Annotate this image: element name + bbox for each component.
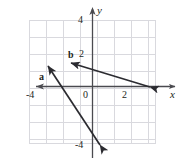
y-tick-label-2: 2 — [79, 49, 84, 59]
x-axis-label: x — [170, 89, 175, 100]
x-tick-label-neg4: -4 — [26, 90, 34, 100]
coordinate-plane-svg — [0, 0, 186, 164]
origin-label: 0 — [83, 90, 88, 100]
vector-b-label: b — [68, 50, 74, 60]
y-tick-label-4: 4 — [78, 15, 83, 25]
vector-graph-figure: a b 4 2 0 2 -4 -4 x y — [0, 0, 186, 164]
vector-b-line — [71, 63, 150, 87]
y-axis-label: y — [97, 5, 102, 16]
y-tick-label-neg4: -4 — [75, 140, 83, 150]
vector-a-label: a — [39, 72, 44, 82]
x-tick-label-2: 2 — [122, 90, 127, 100]
